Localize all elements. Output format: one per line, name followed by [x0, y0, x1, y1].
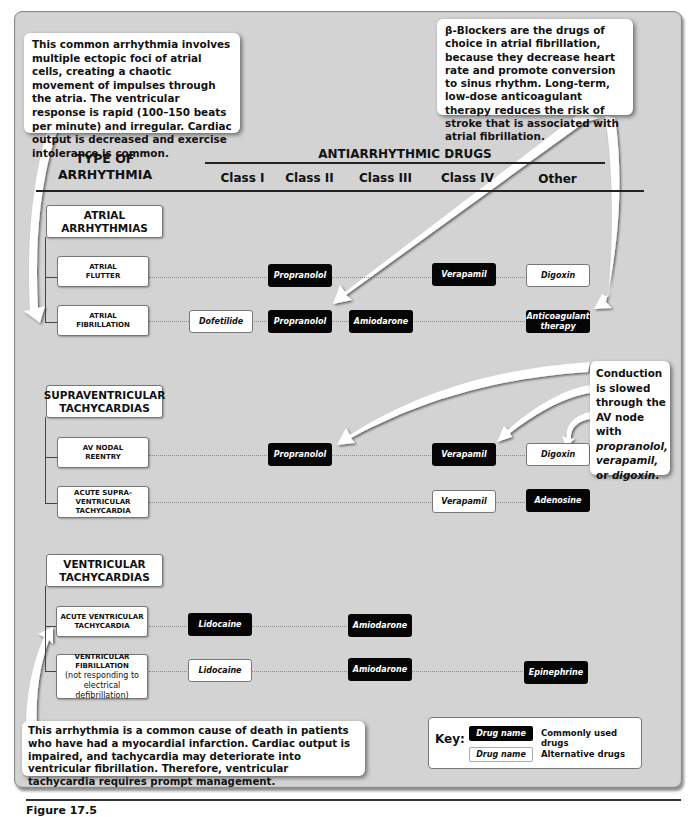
row-acute-ventricular-tachycardia: ACUTE VENTRICULAR TACHYCARDIA — [56, 606, 148, 637]
ventricular-tachycardia-callout: This arrhythmia is a common cause of dea… — [22, 721, 365, 776]
key-label: Key: — [435, 732, 465, 746]
atrial-fibrillation-callout: This common arrhythmia involves multiple… — [24, 33, 240, 133]
key-common-swatch: Drug name — [469, 726, 533, 741]
drug-verapamil: Verapamil — [432, 443, 496, 466]
tree-branch — [45, 322, 57, 323]
drug-dofetilide: Dofetilide — [189, 310, 253, 333]
digoxin-mention: digoxin — [612, 469, 655, 481]
tree-line-supraventricular — [45, 417, 46, 503]
key-alternative-desc: Alternative drugs — [541, 749, 625, 759]
drug-amiodarone: Amiodarone — [348, 658, 412, 681]
column-other: Other — [520, 172, 595, 186]
category-supraventricular-tachycardias: SUPRAVENTRICULARTACHYCARDIAS — [46, 385, 163, 418]
drug-amiodarone: Amiodarone — [348, 614, 412, 637]
category-ventricular-tachycardias: VENTRICULARTACHYCARDIAS — [46, 554, 163, 587]
beta-blockers-note: β-Blockers are the drugs of choice in at… — [445, 24, 619, 142]
drug-propranolol: Propranolol — [268, 310, 332, 333]
antiarrhythmic-drugs-header: ANTIARRHYTHMIC DRUGS — [205, 147, 605, 161]
legend-key: Key: Drug name Commonly used drugs Drug … — [428, 717, 642, 769]
type-of-arrhythmia-header: TYPE OF ARRHYTHMIA — [50, 151, 160, 183]
drug-anticoagulant-therapy: Anticoagulant therapy — [526, 310, 590, 333]
drug-lidocaine: Lidocaine — [188, 613, 252, 636]
category-atrial-arrhythmias: ATRIALARRHYTHMIAS — [46, 205, 163, 238]
caption-rule — [26, 799, 681, 801]
key-alternative-swatch: Drug name — [469, 747, 533, 762]
atrial-fibrillation-note: This common arrhythmia involves multiple… — [32, 38, 232, 159]
tree-branch — [45, 457, 57, 458]
tree-branch — [45, 277, 57, 278]
key-common-desc: Commonly used drugs — [541, 728, 641, 748]
drug-amiodarone: Amiodarone — [349, 310, 413, 333]
arrow-to-acute-vt-icon — [26, 627, 53, 728]
beta-blockers-callout: β-Blockers are the drugs of choice in at… — [437, 19, 633, 115]
tree-line-ventricular — [45, 586, 46, 671]
arrow-to-av-verapamil-icon — [497, 385, 590, 442]
drugs-header-rule — [205, 162, 605, 164]
drug-digoxin: Digoxin — [526, 264, 590, 287]
drug-lidocaine: Lidocaine — [188, 659, 252, 682]
drug-adenosine: Adenosine — [526, 489, 590, 512]
conduction-callout: Conduction is slowed through the AV node… — [590, 361, 670, 475]
row-acute-supraventricular-tachycardia: ACUTE SUPRA- VENTRICULAR TACHYCARDIA — [57, 486, 149, 518]
tree-line-atrial — [45, 237, 46, 323]
column-class-iv: Class IV — [430, 171, 505, 185]
column-class-i: Class I — [205, 171, 280, 185]
row-av-nodal-reentry: AV NODAL REENTRY — [57, 437, 149, 468]
propranolol-mention: propranolol, — [596, 440, 668, 452]
drug-verapamil: Verapamil — [432, 263, 496, 286]
column-header-rule — [36, 190, 644, 192]
figure-caption: Figure 17.5 — [26, 804, 97, 817]
drug-epinephrine: Epinephrine — [524, 661, 588, 684]
column-class-iii: Class III — [348, 171, 423, 185]
drug-propranolol: Propranolol — [268, 264, 332, 287]
drug-propranolol: Propranolol — [268, 443, 332, 466]
verapamil-mention: verapamil, — [596, 454, 658, 466]
row-atrial-flutter: ATRIAL FLUTTER — [57, 256, 149, 287]
row-ventricular-fibrillation: VENTRICULAR FIBRILLATION (not responding… — [56, 654, 148, 699]
drug-verapamil: Verapamil — [432, 490, 496, 513]
arrow-to-anticoagulant-icon — [594, 115, 619, 309]
column-class-ii: Class II — [272, 171, 347, 185]
row-atrial-fibrillation: ATRIAL FIBRILLATION — [57, 305, 149, 336]
drug-digoxin: Digoxin — [526, 443, 590, 466]
tree-branch — [45, 503, 57, 504]
